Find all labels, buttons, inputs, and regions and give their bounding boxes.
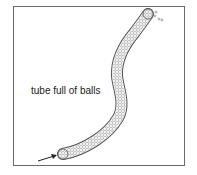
inlet-arrow-icon <box>38 154 57 161</box>
tube-label: tube full of balls <box>31 85 101 96</box>
exiting-balls <box>154 11 163 21</box>
tube <box>63 14 148 154</box>
